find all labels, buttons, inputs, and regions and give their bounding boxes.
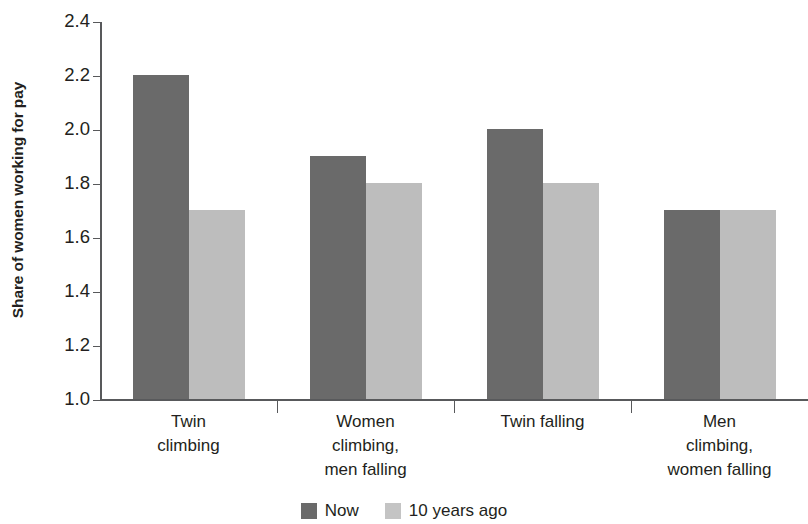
y-axis-tick-mark: [93, 76, 100, 77]
y-axis-tick-label: 2.0: [64, 118, 90, 140]
x-axis-category-label-line: climbing,: [277, 434, 454, 458]
y-axis-tick-mark: [93, 346, 100, 347]
y-axis-line: [100, 22, 102, 400]
x-axis-labels: TwinclimbingWomenclimbing,men fallingTwi…: [100, 410, 808, 490]
legend-label: Now: [325, 501, 359, 521]
x-axis-category-label-line: Twin falling: [454, 410, 631, 434]
legend-item: 10 years ago: [385, 501, 507, 521]
bar-ten-years-ago: [366, 183, 422, 399]
y-axis-tick-mark: [93, 184, 100, 185]
y-axis-tick-label: 1.8: [64, 172, 90, 194]
legend-item: Now: [301, 501, 359, 521]
y-axis-tick-label: 1.4: [64, 280, 90, 302]
y-axis: 1.01.21.41.61.82.02.22.4: [36, 0, 100, 410]
bar-now: [310, 156, 366, 399]
x-axis-category-label: Menclimbing,women falling: [631, 410, 808, 482]
y-axis-title-text: Share of women working for pay: [9, 82, 27, 318]
x-axis-category-label-line: Men: [631, 410, 808, 434]
y-axis-tick-mark: [93, 22, 100, 23]
plot-area: [100, 0, 808, 400]
y-axis-title: Share of women working for pay: [0, 0, 36, 400]
bar-now: [487, 129, 543, 399]
x-axis-category-label-line: Twin: [100, 410, 277, 434]
bar-chart-figure: Share of women working for pay 1.01.21.4…: [0, 0, 808, 524]
x-axis-category-label-line: women falling: [631, 458, 808, 482]
x-axis-category-label: Twinclimbing: [100, 410, 277, 458]
y-axis-tick-mark: [93, 400, 100, 401]
x-axis-category-label-line: Women: [277, 410, 454, 434]
y-axis-tick-label: 2.4: [64, 10, 90, 32]
bar-now: [664, 210, 720, 399]
legend-label: 10 years ago: [409, 501, 507, 521]
x-axis-category-label-line: climbing: [100, 434, 277, 458]
legend-swatch-icon: [301, 503, 317, 519]
y-axis-tick-label: 2.2: [64, 64, 90, 86]
y-axis-tick-mark: [93, 130, 100, 131]
legend-swatch-icon: [385, 503, 401, 519]
bar-ten-years-ago: [543, 183, 599, 399]
chart-legend: Now10 years ago: [0, 497, 808, 524]
x-axis-category-label: Twin falling: [454, 410, 631, 434]
bar-ten-years-ago: [189, 210, 245, 399]
y-axis-tick-mark: [93, 238, 100, 239]
y-axis-tick-mark: [93, 292, 100, 293]
y-axis-tick-label: 1.0: [64, 388, 90, 410]
bar-ten-years-ago: [720, 210, 776, 399]
x-axis-category-label: Womenclimbing,men falling: [277, 410, 454, 482]
x-axis-category-label-line: climbing,: [631, 434, 808, 458]
y-axis-tick-label: 1.6: [64, 226, 90, 248]
y-axis-tick-label: 1.2: [64, 334, 90, 356]
x-axis-category-label-line: men falling: [277, 458, 454, 482]
bar-now: [133, 75, 189, 399]
